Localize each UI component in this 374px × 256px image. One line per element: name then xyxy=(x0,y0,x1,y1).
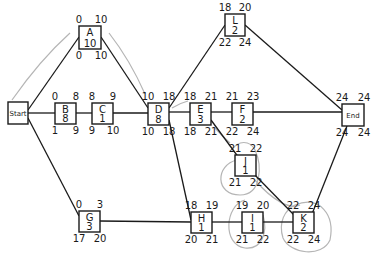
latest-start: 22 xyxy=(226,126,239,137)
earliest-finish: 19 xyxy=(206,200,219,211)
node-duration: 1 xyxy=(99,113,105,124)
earliest-start: 0 xyxy=(76,199,82,210)
node-label: Start xyxy=(9,110,26,118)
node-a: A10010010 xyxy=(76,14,108,61)
node-duration: 2 xyxy=(232,25,238,36)
node-duration: 2 xyxy=(300,222,306,233)
node-e: E318211821 xyxy=(184,91,218,137)
node-end: End24242424 xyxy=(336,92,371,138)
earliest-start: 8 xyxy=(89,91,95,102)
node-d: D810181018 xyxy=(142,91,176,137)
node-duration: 2 xyxy=(239,114,245,125)
node-label: A xyxy=(87,27,94,38)
earliest-start: 18 xyxy=(184,91,197,102)
latest-finish: 9 xyxy=(73,125,79,136)
earliest-finish: 24 xyxy=(308,200,321,211)
latest-finish: 10 xyxy=(95,50,108,61)
node-duration: 1 xyxy=(242,165,248,176)
edge-l-end xyxy=(245,25,342,110)
earliest-finish: 20 xyxy=(239,2,252,13)
earliest-start: 0 xyxy=(52,91,58,102)
node-j: J121222122 xyxy=(229,143,263,188)
node-b: B80819 xyxy=(52,91,79,136)
node-duration: 3 xyxy=(86,221,92,232)
edge-g-h xyxy=(100,221,191,222)
node-l: L218202224 xyxy=(219,2,252,48)
latest-finish: 18 xyxy=(163,126,176,137)
earliest-start: 24 xyxy=(336,92,349,103)
earliest-start: 18 xyxy=(219,2,232,13)
node-duration: 8 xyxy=(62,113,68,124)
node-label: End xyxy=(346,112,359,120)
latest-start: 21 xyxy=(229,177,242,188)
latest-finish: 24 xyxy=(308,234,321,245)
earliest-finish: 18 xyxy=(163,91,176,102)
earliest-finish: 22 xyxy=(250,143,263,154)
latest-start: 18 xyxy=(184,126,197,137)
earliest-finish: 9 xyxy=(110,91,116,102)
latest-start: 24 xyxy=(336,127,349,138)
latest-start: 10 xyxy=(142,126,155,137)
earliest-start: 10 xyxy=(142,91,155,102)
earliest-finish: 21 xyxy=(205,91,218,102)
earliest-finish: 23 xyxy=(247,91,260,102)
earliest-start: 22 xyxy=(287,200,300,211)
earliest-start: 0 xyxy=(76,14,82,25)
latest-start: 22 xyxy=(219,37,232,48)
latest-finish: 24 xyxy=(239,37,252,48)
nodes: StartA10010010B80819C189910D810181018E31… xyxy=(8,2,370,245)
earliest-finish: 24 xyxy=(358,92,371,103)
earliest-start: 21 xyxy=(229,143,242,154)
latest-finish: 22 xyxy=(250,177,263,188)
node-duration: 3 xyxy=(197,114,203,125)
latest-start: 1 xyxy=(52,125,58,136)
latest-finish: 10 xyxy=(107,125,120,136)
node-duration: 1 xyxy=(249,222,255,233)
latest-finish: 21 xyxy=(206,234,219,245)
earliest-finish: 8 xyxy=(73,91,79,102)
node-duration: 8 xyxy=(155,114,161,125)
earliest-start: 21 xyxy=(226,91,239,102)
earliest-finish: 10 xyxy=(95,14,108,25)
highlight-marks xyxy=(12,33,331,252)
node-f: F221232224 xyxy=(226,91,260,137)
latest-start: 21 xyxy=(236,234,249,245)
latest-start: 0 xyxy=(76,50,82,61)
network-diagram: StartA10010010B80819C189910D810181018E31… xyxy=(0,0,374,256)
latest-finish: 24 xyxy=(247,126,260,137)
latest-finish: 22 xyxy=(257,234,270,245)
latest-finish: 20 xyxy=(94,233,107,244)
latest-finish: 24 xyxy=(358,127,371,138)
node-start: Start xyxy=(8,102,28,124)
latest-start: 22 xyxy=(287,234,300,245)
earliest-start: 18 xyxy=(185,200,198,211)
latest-finish: 21 xyxy=(205,126,218,137)
latest-start: 17 xyxy=(73,233,86,244)
latest-start: 20 xyxy=(185,234,198,245)
earliest-finish: 20 xyxy=(257,200,270,211)
earliest-start: 19 xyxy=(236,200,249,211)
node-duration: 10 xyxy=(84,38,97,49)
node-duration: 1 xyxy=(198,222,204,233)
earliest-finish: 3 xyxy=(97,199,103,210)
latest-start: 9 xyxy=(89,125,95,136)
